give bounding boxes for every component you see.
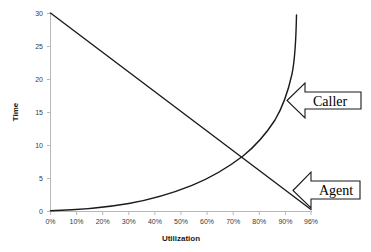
callout-label-caller: Caller bbox=[313, 94, 348, 109]
x-axis-ticks bbox=[51, 212, 312, 216]
x-tick-label: 20% bbox=[96, 218, 110, 225]
series-line-caller bbox=[51, 15, 297, 211]
series-line-agent bbox=[51, 13, 312, 210]
chart-container: 0 5 10 15 20 25 30 0% 10% 20% 30% 40% 50… bbox=[0, 0, 371, 252]
y-tick-label: 0 bbox=[39, 208, 43, 215]
series-group bbox=[51, 13, 312, 211]
y-axis-ticks bbox=[47, 14, 51, 212]
axes-group bbox=[47, 13, 312, 215]
callout-agent: Agent bbox=[293, 172, 360, 208]
x-tick-label: 80% bbox=[252, 218, 266, 225]
x-tick-label: 0% bbox=[45, 218, 55, 225]
y-tick-label: 25 bbox=[35, 43, 43, 50]
y-axis-title: Time bbox=[11, 102, 20, 121]
y-tick-label: 10 bbox=[35, 142, 43, 149]
utilization-time-chart: 0 5 10 15 20 25 30 0% 10% 20% 30% 40% 50… bbox=[0, 0, 371, 252]
x-tick-label: 90% bbox=[278, 218, 292, 225]
y-tick-label: 5 bbox=[39, 175, 43, 182]
x-tick-label: 50% bbox=[174, 218, 188, 225]
y-tick-label: 30 bbox=[35, 10, 43, 17]
y-tick-label: 20 bbox=[35, 76, 43, 83]
x-tick-label: 60% bbox=[200, 218, 214, 225]
y-tick-label: 15 bbox=[35, 109, 43, 116]
callout-label-agent: Agent bbox=[319, 183, 353, 198]
x-axis-title: Utilization bbox=[162, 234, 200, 243]
x-tick-label: 70% bbox=[226, 218, 240, 225]
y-tick-labels: 0 5 10 15 20 25 30 bbox=[35, 10, 43, 215]
x-tick-label: 40% bbox=[148, 218, 162, 225]
x-tick-labels: 0% 10% 20% 30% 40% 50% 60% 70% 80% 90% 9… bbox=[45, 218, 318, 225]
x-tick-label: 96% bbox=[304, 218, 318, 225]
x-tick-label: 10% bbox=[70, 218, 84, 225]
callout-caller: Caller bbox=[287, 83, 361, 118]
x-tick-label: 30% bbox=[122, 218, 136, 225]
